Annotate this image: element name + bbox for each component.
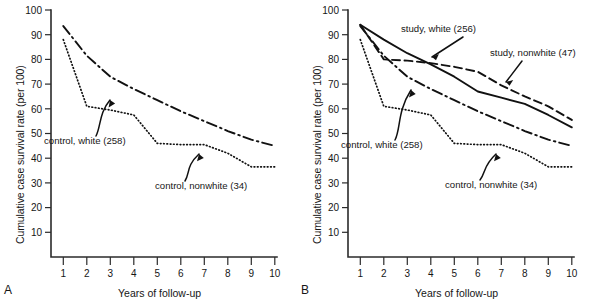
y-tick-30: 30 xyxy=(31,178,43,189)
y-tick-20: 20 xyxy=(328,202,340,213)
figure-survival-curves: 100 90 80 70 60 50 40 30 20 10 xyxy=(0,0,593,303)
series-control-nonwhite xyxy=(63,40,274,167)
x-tick-10: 10 xyxy=(566,268,578,279)
panel-b-x-ticks xyxy=(360,257,572,265)
series-study-white xyxy=(360,25,572,128)
y-tick-40: 40 xyxy=(328,153,340,164)
y-tick-10: 10 xyxy=(328,227,340,238)
x-tick-8: 8 xyxy=(225,268,231,279)
y-tick-30: 30 xyxy=(328,178,340,189)
x-tick-9: 9 xyxy=(249,268,255,279)
panel-b: 100 90 80 70 60 50 40 30 20 10 xyxy=(297,0,593,303)
x-tick-4: 4 xyxy=(428,268,434,279)
y-tick-100: 100 xyxy=(25,5,42,16)
annotation-control-white: control, white (258) xyxy=(44,100,126,146)
panel-b-y-axis-label: Cumulative case survival rate (per 100) xyxy=(311,65,323,244)
y-tick-50: 50 xyxy=(31,128,43,139)
x-tick-4: 4 xyxy=(131,268,137,279)
y-tick-70: 70 xyxy=(328,79,340,90)
series-control-white xyxy=(63,26,274,146)
annotation-control-nonwhite-label: control, nonwhite (34) xyxy=(445,179,537,190)
annotation-study-nonwhite: study, nonwhite (47) xyxy=(490,47,576,86)
panel-b-y-tick-labels: 100 90 80 70 60 50 40 30 20 10 xyxy=(322,5,339,238)
panel-b-letter: B xyxy=(301,283,309,297)
x-tick-6: 6 xyxy=(178,268,184,279)
annotation-control-nonwhite: control, nonwhite (34) xyxy=(155,154,247,191)
y-tick-100: 100 xyxy=(322,5,339,16)
y-tick-40: 40 xyxy=(31,153,43,164)
panel-b-x-axis-label: Years of follow-up xyxy=(415,287,498,299)
x-tick-7: 7 xyxy=(499,268,505,279)
panel-a-y-axis-label: Cumulative case survival rate (per 100) xyxy=(14,65,26,244)
annotation-control-white-label: control, white (258) xyxy=(341,139,423,150)
panel-b-plot: 100 90 80 70 60 50 40 30 20 10 xyxy=(297,0,593,303)
panel-a: 100 90 80 70 60 50 40 30 20 10 xyxy=(0,0,296,303)
panel-a-axes xyxy=(51,10,277,257)
panel-a-x-axis-label: Years of follow-up xyxy=(118,287,201,299)
x-tick-5: 5 xyxy=(452,268,458,279)
x-tick-6: 6 xyxy=(475,268,481,279)
x-tick-3: 3 xyxy=(405,268,411,279)
x-tick-1: 1 xyxy=(358,268,364,279)
panel-a-y-ticks xyxy=(45,10,51,232)
panel-b-x-tick-labels: 1 2 3 4 5 6 7 8 9 10 xyxy=(358,268,578,279)
x-tick-7: 7 xyxy=(202,268,208,279)
annotation-study-nonwhite-label: study, nonwhite (47) xyxy=(490,47,576,58)
panel-a-x-ticks xyxy=(63,257,274,265)
annotation-control-nonwhite-label: control, nonwhite (34) xyxy=(155,180,247,191)
y-tick-70: 70 xyxy=(31,79,43,90)
annotation-study-white-label: study, white (256) xyxy=(401,23,476,34)
x-tick-8: 8 xyxy=(522,268,528,279)
x-tick-1: 1 xyxy=(61,268,67,279)
y-tick-90: 90 xyxy=(31,30,43,41)
y-tick-10: 10 xyxy=(31,227,43,238)
y-tick-80: 80 xyxy=(328,54,340,65)
panel-a-x-tick-labels: 1 2 3 4 5 6 7 8 9 10 xyxy=(61,268,281,279)
panel-a-letter: A xyxy=(4,283,12,297)
series-study-nonwhite xyxy=(360,25,572,120)
y-tick-60: 60 xyxy=(31,104,43,115)
y-tick-80: 80 xyxy=(31,54,43,65)
x-tick-3: 3 xyxy=(108,268,114,279)
x-tick-9: 9 xyxy=(546,268,552,279)
y-tick-60: 60 xyxy=(328,104,340,115)
x-tick-5: 5 xyxy=(155,268,161,279)
x-tick-10: 10 xyxy=(269,268,281,279)
annotation-control-nonwhite: control, nonwhite (34) xyxy=(445,154,537,190)
x-tick-2: 2 xyxy=(84,268,90,279)
panel-a-y-tick-labels: 100 90 80 70 60 50 40 30 20 10 xyxy=(25,5,42,238)
y-tick-20: 20 xyxy=(31,202,43,213)
panel-b-y-ticks xyxy=(342,10,348,232)
panel-a-plot: 100 90 80 70 60 50 40 30 20 10 xyxy=(0,0,296,303)
y-tick-50: 50 xyxy=(328,128,340,139)
y-tick-90: 90 xyxy=(328,30,340,41)
x-tick-2: 2 xyxy=(381,268,387,279)
annotation-control-white-label: control, white (258) xyxy=(44,135,126,146)
